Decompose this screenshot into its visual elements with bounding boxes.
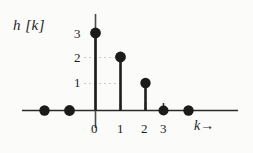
x-axis-ticks	[121, 103, 164, 111]
sample-marker-k3	[159, 106, 169, 116]
gridlines	[84, 58, 122, 84]
x-axis-variable-label: k→	[194, 119, 214, 133]
y-tick-label-1: 1	[74, 76, 81, 89]
right-arrow-icon: →	[200, 118, 214, 133]
y-axis-label: h [k]	[13, 18, 45, 33]
x-tick-label-3: 3	[160, 122, 167, 135]
x-tick-label-1: 1	[117, 122, 124, 135]
sample-marker-k0	[90, 28, 101, 39]
sample-marker-k4	[183, 105, 193, 115]
sample-marker-km1	[64, 105, 75, 116]
x-tick-label-2: 2	[141, 122, 148, 135]
y-tick-label-3: 3	[74, 27, 81, 40]
sample-marker-k1	[115, 52, 126, 63]
x-tick-label-0: 0	[91, 122, 98, 135]
discrete-signal-figure: h [k] 3 2 1 0 1 2 3 k→	[0, 0, 253, 153]
y-tick-label-2: 2	[74, 51, 81, 64]
sample-markers	[39, 28, 193, 116]
sample-marker-km2	[39, 105, 49, 115]
stems	[96, 33, 146, 111]
sample-marker-k2	[140, 78, 150, 88]
